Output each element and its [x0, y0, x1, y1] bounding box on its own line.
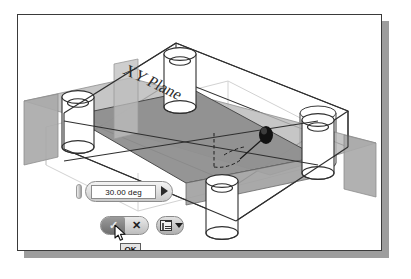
cylinder-bottom-center: [206, 175, 238, 240]
screenshot-root: XY Plane 30.00 deg ✓ ✕: [0, 0, 411, 279]
ok-tooltip: OK: [120, 243, 141, 251]
cylinder-right: [302, 114, 334, 180]
triangle-right-icon[interactable]: [161, 186, 168, 196]
cad-window: XY Plane 30.00 deg ✓ ✕: [17, 14, 382, 251]
wireframe-model: XY Plane: [18, 15, 381, 250]
mouse-pointer-icon: [114, 225, 127, 242]
angle-input[interactable]: 30.00 deg: [91, 185, 156, 199]
model-viewport[interactable]: XY Plane: [18, 15, 381, 250]
chevron-down-icon[interactable]: [175, 223, 183, 228]
close-icon: ✕: [125, 217, 148, 234]
drag-grip-icon[interactable]: [76, 184, 82, 199]
options-dropdown-button[interactable]: [156, 216, 184, 235]
cancel-button[interactable]: ✕: [125, 217, 148, 234]
list-menu-icon: [160, 220, 172, 231]
value-input-toolbar[interactable]: 30.00 deg: [76, 181, 198, 203]
angle-input-container[interactable]: 30.00 deg: [85, 181, 173, 202]
